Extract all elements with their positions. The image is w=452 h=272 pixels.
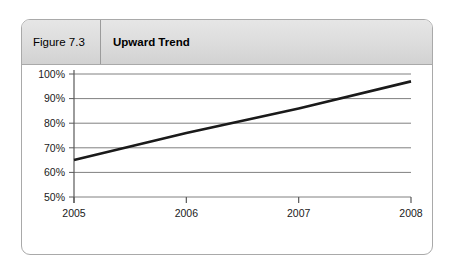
figure-title-label: Upward Trend xyxy=(113,36,190,48)
x-tick-label: 2006 xyxy=(175,207,199,219)
figure-card: Figure 7.3 Upward Trend 100%90%80%70%60%… xyxy=(21,19,433,255)
line-chart: 100%90%80%70%60%50% 2005200620072008 xyxy=(22,66,433,255)
y-tick-label: 70% xyxy=(44,142,65,154)
y-axis xyxy=(69,70,74,203)
chart-canvas: 100%90%80%70%60%50% 2005200620072008 xyxy=(22,66,433,255)
x-tick-labels: 2005200620072008 xyxy=(62,207,423,219)
x-tick-label: 2005 xyxy=(62,207,86,219)
y-tick-label: 80% xyxy=(44,117,65,129)
y-tick-label: 90% xyxy=(44,92,65,104)
x-tick-label: 2007 xyxy=(287,207,311,219)
figure-number-cell: Figure 7.3 xyxy=(22,20,101,64)
x-axis xyxy=(74,197,411,203)
y-tick-label: 60% xyxy=(44,166,65,178)
y-tick-label: 100% xyxy=(38,68,65,80)
figure-title-cell: Upward Trend xyxy=(101,20,432,64)
y-tick-label: 50% xyxy=(44,191,65,203)
figure-header: Figure 7.3 Upward Trend xyxy=(22,20,432,65)
x-tick-label: 2008 xyxy=(399,207,423,219)
figure-number-label: Figure 7.3 xyxy=(33,36,85,48)
y-tick-labels: 100%90%80%70%60%50% xyxy=(38,68,65,203)
